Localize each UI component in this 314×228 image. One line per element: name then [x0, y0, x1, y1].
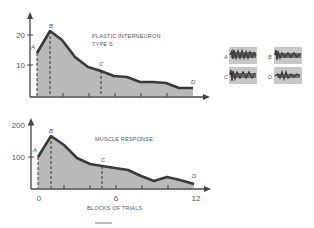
bottom-xtick-label-6: 6: [114, 194, 119, 203]
trace-label-b: B: [268, 54, 272, 60]
bottom-xtick-label-12: 12: [192, 194, 201, 203]
trace-panels: A B C D: [223, 47, 302, 84]
bottom-x-axis-label: BLOCKS OF TRIALS: [87, 205, 142, 211]
bottom-ytick-label-200: 200: [12, 121, 26, 130]
top-point-label-c: C: [99, 61, 104, 67]
bottom-xtick-label-0: 0: [37, 194, 42, 203]
top-point-label-d: D: [191, 79, 196, 85]
top-x-axis-arrow-icon: [203, 94, 210, 100]
top-ytick-label-20: 20: [16, 31, 25, 40]
top-title-line1: PLASTIC INTERNEURON: [92, 33, 161, 39]
trace-label-d: D: [268, 74, 272, 80]
bottom-x-axis-arrow-icon: [204, 186, 211, 192]
bottom-chart: 200 100 0 6 12 A B C D MUSCLE RESPONSE B…: [12, 118, 211, 211]
top-chart: 20 10 A B C D PLASTIC INTERNEURON TYPE S: [16, 12, 210, 100]
trace-label-c: C: [224, 74, 228, 80]
bottom-y-axis-arrow-icon: [28, 118, 34, 125]
bottom-title: MUSCLE RESPONSE: [95, 136, 153, 142]
top-y-axis-arrow-icon: [27, 12, 33, 19]
bottom-ytick-label-100: 100: [12, 153, 26, 162]
top-title-line2: TYPE S: [92, 41, 113, 47]
top-ytick-label-10: 10: [16, 61, 25, 70]
trace-label-a: A: [223, 54, 228, 60]
top-point-label-a: A: [30, 44, 35, 50]
figure: 20 10 A B C D PLASTIC INTERNEURON TYPE S…: [0, 0, 314, 228]
bottom-point-label-b: B: [49, 128, 53, 134]
bottom-point-label-a: A: [32, 147, 37, 153]
top-area-fill: [37, 31, 193, 96]
bottom-point-label-d: D: [192, 173, 197, 179]
top-point-label-b: B: [49, 23, 53, 29]
bottom-point-label-c: C: [101, 157, 106, 163]
